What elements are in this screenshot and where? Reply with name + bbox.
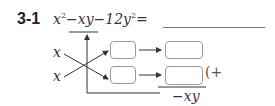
cross-diagram-lines [0, 0, 275, 106]
sum-result: −xy [172, 88, 200, 104]
small-box-2[interactable] [110, 66, 136, 84]
result-box-2[interactable] [165, 66, 203, 85]
sum-prefix: (+ [205, 64, 222, 80]
left-factor-x: x [53, 68, 61, 84]
small-box-1[interactable] [110, 41, 136, 59]
left-factor-x: x [53, 44, 61, 60]
result-box-1[interactable] [165, 41, 203, 59]
